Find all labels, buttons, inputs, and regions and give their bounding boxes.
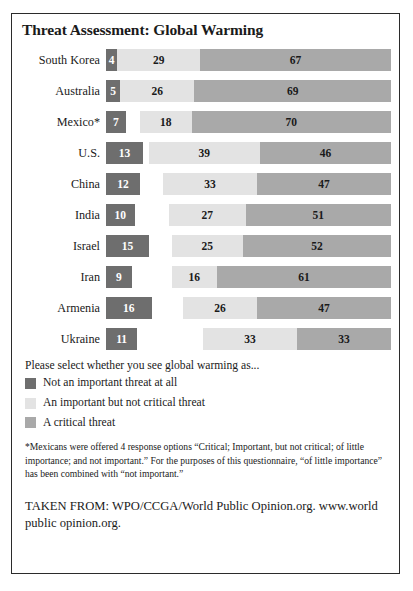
chart-row: Mexico*71870: [22, 111, 399, 133]
row-category-label: Ukraine: [22, 328, 100, 350]
chart-plot-area: South Korea42967Australia52669Mexico*718…: [12, 49, 399, 350]
bar-segment-critical: 69: [194, 80, 391, 102]
row-category-label: U.S.: [22, 142, 100, 164]
bar-segment-not-important: 15: [106, 235, 149, 257]
chart-row: South Korea42967: [22, 49, 399, 71]
bar-segment-not-important: 4: [106, 49, 117, 71]
legend-label: Not an important threat at all: [43, 377, 177, 390]
bar-segment-important: 29: [117, 49, 200, 71]
legend-item-list: Not an important threat at allAn importa…: [25, 377, 399, 429]
chart-row: China123347: [22, 173, 399, 195]
row-category-label: India: [22, 204, 100, 226]
legend-swatch-icon: [25, 378, 36, 389]
row-category-label: Australia: [22, 80, 100, 102]
bar-segment-not-important: 13: [106, 142, 143, 164]
title-zone: Threat Assessment: Global Warming: [12, 14, 399, 43]
chart-row: U.S.133946: [22, 142, 399, 164]
chart-title: Threat Assessment: Global Warming: [22, 21, 399, 39]
row-category-label: Israel: [22, 235, 100, 257]
bar-segment-not-important: 11: [106, 328, 137, 350]
chart-row: Iran91661: [22, 266, 399, 288]
row-bar-track: 162647: [106, 297, 391, 319]
bar-segment-important: 33: [203, 328, 297, 350]
legend-swatch-icon: [25, 417, 36, 428]
row-bar-track: 91661: [106, 266, 391, 288]
row-bar-track: 71870: [106, 111, 391, 133]
bar-segment-important: 33: [163, 173, 257, 195]
bar-segment-critical: 46: [260, 142, 391, 164]
bar-segment-important: 39: [149, 142, 260, 164]
chart-row: Ukraine113333: [22, 328, 399, 350]
row-category-label: Iran: [22, 266, 100, 288]
chart-row: Armenia162647: [22, 297, 399, 319]
bar-segment-not-important: 5: [106, 80, 120, 102]
legend-label: An important but not critical threat: [43, 397, 205, 410]
legend-swatch-icon: [25, 398, 36, 409]
row-bar-track: 102751: [106, 204, 391, 226]
bar-segment-not-important: 7: [106, 111, 126, 133]
legend-label: A critical threat: [43, 417, 115, 430]
row-bar-track: 133946: [106, 142, 391, 164]
row-category-label: South Korea: [22, 49, 100, 71]
chart-figure: Threat Assessment: Global Warming South …: [11, 13, 400, 574]
chart-row: Australia52669: [22, 80, 399, 102]
bar-segment-important: 26: [120, 80, 194, 102]
chart-source: TAKEN FROM: WPO/CCGA/World Public Opinio…: [12, 498, 399, 531]
bar-segment-critical: 47: [257, 173, 391, 195]
bar-segment-critical: 67: [200, 49, 391, 71]
legend-item: Not an important threat at all: [25, 377, 399, 390]
chart-legend: Please select whether you see global war…: [12, 359, 399, 429]
bar-segment-important: 25: [172, 235, 243, 257]
bar-segment-critical: 70: [192, 111, 392, 133]
bar-segment-critical: 51: [246, 204, 391, 226]
bar-segment-critical: 47: [257, 297, 391, 319]
chart-footnote: *Mexicans were offered 4 response option…: [12, 440, 399, 481]
bar-segment-critical: 52: [243, 235, 391, 257]
bar-segment-not-important: 16: [106, 297, 152, 319]
chart-row: Israel152552: [22, 235, 399, 257]
row-category-label: China: [22, 173, 100, 195]
bar-segment-important: 18: [140, 111, 191, 133]
row-category-label: Mexico*: [22, 111, 100, 133]
bar-segment-not-important: 10: [106, 204, 135, 226]
row-bar-track: 42967: [106, 49, 391, 71]
bar-segment-not-important: 12: [106, 173, 140, 195]
legend-item: A critical threat: [25, 417, 399, 430]
bar-segment-important: 27: [169, 204, 246, 226]
chart-row: India102751: [22, 204, 399, 226]
row-bar-track: 152552: [106, 235, 391, 257]
bar-segment-critical: 33: [297, 328, 391, 350]
legend-item: An important but not critical threat: [25, 397, 399, 410]
bar-segment-important: 26: [183, 297, 257, 319]
row-bar-track: 113333: [106, 328, 391, 350]
legend-prompt: Please select whether you see global war…: [25, 359, 399, 372]
bar-segment-not-important: 9: [106, 266, 132, 288]
bar-segment-critical: 61: [217, 266, 391, 288]
row-bar-track: 123347: [106, 173, 391, 195]
bar-segment-important: 16: [172, 266, 218, 288]
row-bar-track: 52669: [106, 80, 391, 102]
row-category-label: Armenia: [22, 297, 100, 319]
